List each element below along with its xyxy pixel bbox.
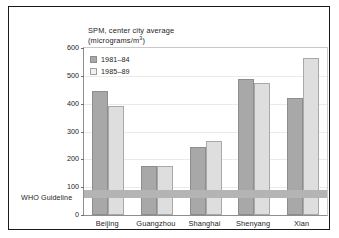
- bar: [206, 141, 222, 215]
- chart-legend: 1981–841985–89: [90, 54, 130, 78]
- chart-title-line1: SPM, center city average: [88, 26, 174, 35]
- bar: [190, 147, 206, 215]
- x-tick-label: Shenyang: [229, 219, 278, 228]
- figure-frame: SPM, center city average (micrograms/m3)…: [8, 6, 330, 230]
- who-guideline-band: [84, 190, 327, 198]
- legend-swatch: [90, 68, 97, 75]
- figure-container: SPM, center city average (micrograms/m3)…: [0, 0, 339, 238]
- legend-label: 1981–84: [101, 55, 130, 64]
- chart-title: SPM, center city average (micrograms/m3): [88, 26, 174, 45]
- legend-item: 1981–84: [90, 54, 130, 65]
- x-tick-label: Shanghai: [180, 219, 229, 228]
- chart-subtitle-tail: ): [142, 36, 145, 45]
- y-tick-label: 300: [53, 127, 79, 136]
- y-tick-label: 500: [53, 71, 79, 80]
- y-tick-label: 100: [53, 182, 79, 191]
- y-axis: 0100200300400500600: [49, 47, 79, 214]
- y-tick-label: 400: [53, 99, 79, 108]
- x-tick-label: Beijing: [83, 219, 132, 228]
- y-tick-mark: [81, 215, 84, 216]
- who-guideline-label: WHO Guideline: [21, 193, 72, 202]
- legend-swatch: [90, 56, 97, 63]
- x-tick-label: Guangzhou: [132, 219, 181, 228]
- legend-label: 1985–89: [101, 67, 130, 76]
- x-tick-label: Xian: [277, 219, 326, 228]
- bar: [108, 106, 124, 215]
- chart-title-line2: (micrograms/m3): [88, 36, 174, 46]
- y-tick-label: 600: [53, 43, 79, 52]
- chart-subtitle-base: (micrograms/m: [88, 36, 139, 45]
- y-tick-label: 0: [53, 210, 79, 219]
- y-tick-label: 200: [53, 154, 79, 163]
- legend-item: 1985–89: [90, 66, 130, 77]
